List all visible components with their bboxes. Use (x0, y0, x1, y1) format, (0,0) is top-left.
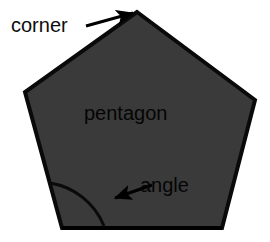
diagram-canvas: corner pentagon angle (0, 0, 270, 242)
corner-label: corner (11, 14, 68, 36)
angle-label: angle (140, 174, 189, 196)
pentagon-label: pentagon (84, 102, 167, 124)
pentagon-diagram-svg: corner pentagon angle (0, 0, 270, 242)
